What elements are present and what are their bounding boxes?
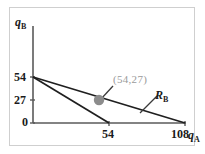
y-axis-title: qB <box>15 16 26 33</box>
x-axis-title-subscript: A <box>194 135 200 144</box>
y-axis-title-subscript: B <box>21 22 26 31</box>
y-tick-label-27: 27 <box>14 94 26 106</box>
y-tick-label-0: 0 <box>22 116 28 128</box>
data-point-marker <box>94 95 104 105</box>
x-tick-label-108: 108 <box>171 128 189 140</box>
point-annotation-label: (54,27) <box>113 74 147 85</box>
curve-label-text: R <box>155 88 163 102</box>
x-axis-title: qA <box>188 129 200 146</box>
y-tick-label-54: 54 <box>14 71 26 83</box>
curve-label-rb: RB <box>155 89 168 106</box>
x-tick-label-54: 54 <box>102 128 114 140</box>
curve-label-subscript: B <box>163 95 168 104</box>
